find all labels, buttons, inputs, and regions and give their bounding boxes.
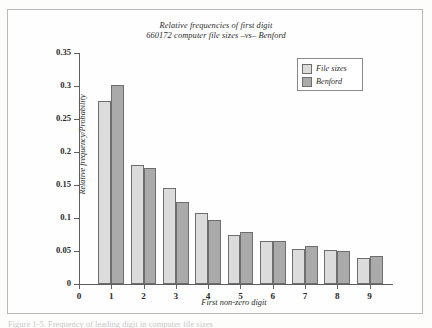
bar-file-sizes-digit-7 (292, 249, 305, 284)
chart-legend: File sizes Benford (297, 58, 363, 91)
chart-title: Relative frequencies of first digit (8, 21, 424, 31)
x-axis-tick (144, 284, 145, 289)
legend-item-benford: Benford (302, 75, 358, 88)
bar-file-sizes-digit-9 (357, 258, 370, 284)
bar-file-sizes-digit-6 (260, 241, 273, 284)
y-axis-tick-label: 0.2 (60, 146, 71, 156)
y-axis-tick: 0.15 (74, 185, 79, 186)
y-axis-label-wrap: Relative frequency/Probability (36, 80, 50, 240)
legend-swatch-icon-file-sizes (302, 64, 312, 74)
bar-file-sizes-digit-3 (163, 188, 176, 284)
figure-frame: Relative frequencies of first digit 6601… (7, 9, 423, 314)
y-axis-tick-label: 0.35 (56, 47, 71, 57)
x-axis-line (79, 284, 393, 285)
bar-benford-digit-4 (208, 220, 221, 284)
y-axis-tick: 0.2 (74, 152, 79, 153)
y-axis-tick: 0.3 (74, 86, 79, 87)
x-axis-tick (370, 284, 371, 289)
bar-file-sizes-digit-2 (131, 165, 144, 284)
y-axis-tick: 0.35 (74, 53, 79, 54)
x-axis-tick (337, 284, 338, 289)
y-axis-line (79, 53, 80, 284)
x-axis-label: First non-zero digit (79, 298, 389, 307)
bar-file-sizes-digit-8 (324, 250, 337, 284)
bar-benford-digit-9 (370, 256, 383, 284)
bar-benford-digit-7 (305, 246, 318, 284)
y-axis-tick-label: 0 (67, 278, 71, 288)
x-axis-tick (240, 284, 241, 289)
x-axis-tick (305, 284, 306, 289)
bar-benford-digit-3 (176, 202, 189, 285)
y-axis-tick: 0.25 (74, 119, 79, 120)
bar-benford-digit-6 (273, 241, 286, 284)
y-axis-tick: 0.1 (74, 218, 79, 219)
bar-benford-digit-5 (240, 232, 253, 284)
bar-benford-digit-2 (144, 168, 157, 284)
bar-benford-digit-8 (337, 251, 350, 284)
figure-container: Relative frequencies of first digit 6601… (0, 0, 432, 328)
legend-item-file-sizes: File sizes (302, 62, 358, 75)
legend-swatch-icon-benford (302, 77, 312, 87)
y-axis-tick-label: 0.05 (56, 245, 71, 255)
x-axis-tick (176, 284, 177, 289)
chart-title-block: Relative frequencies of first digit 6601… (8, 21, 424, 41)
y-axis-tick: 0.05 (74, 251, 79, 252)
legend-label-file-sizes: File sizes (316, 64, 347, 73)
y-axis-tick-label: 0.15 (56, 179, 71, 189)
y-axis-tick-label: 0.25 (56, 113, 71, 123)
legend-label-benford: Benford (316, 77, 342, 86)
y-axis-tick-label: 0.3 (60, 80, 71, 90)
chart-subtitle: 660172 computer file sizes –vs– Benford (8, 31, 424, 41)
bar-file-sizes-digit-1 (98, 101, 111, 284)
bar-file-sizes-digit-5 (228, 235, 241, 285)
x-axis-tick (111, 284, 112, 289)
y-axis-tick-label: 0.1 (60, 212, 71, 222)
x-axis-tick (208, 284, 209, 289)
x-axis-tick (273, 284, 274, 289)
x-axis-tick (79, 284, 80, 289)
bar-file-sizes-digit-4 (195, 213, 208, 284)
figure-caption: Figure 1-5. Frequency of leading digit i… (8, 319, 308, 328)
bar-benford-digit-1 (111, 85, 124, 284)
